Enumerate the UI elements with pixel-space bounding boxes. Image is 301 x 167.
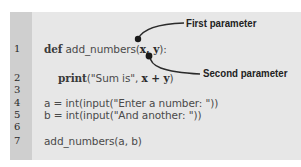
parameters: x, y bbox=[140, 43, 159, 55]
code-line-print: print("Sum is", x + y) bbox=[58, 72, 173, 84]
code-line-def: def add_numbers(x, y): bbox=[44, 43, 167, 55]
code-panel: 1 2 3 4 5 6 7 def add_numbers(x, y): pri… bbox=[10, 12, 301, 160]
code-text: ("Sum is", bbox=[87, 72, 142, 84]
line-number: 4 bbox=[14, 97, 28, 109]
line-number: 6 bbox=[14, 121, 28, 133]
function-name: add_numbers( bbox=[62, 43, 140, 55]
code-text: ): bbox=[159, 43, 166, 55]
first-parameter-label: First parameter bbox=[186, 17, 256, 29]
code-text: ) bbox=[169, 72, 173, 84]
line-number: 7 bbox=[14, 135, 28, 147]
code-line-input-a: a = int(input("Enter a number: ")) bbox=[44, 97, 218, 109]
line-number: 1 bbox=[14, 43, 28, 55]
code-line-input-b: b = int(input("And another: ")) bbox=[44, 109, 201, 121]
param-expression: x + y bbox=[141, 72, 169, 84]
keyword-print: print bbox=[58, 72, 87, 84]
code-line-call: add_numbers(a, b) bbox=[44, 135, 142, 147]
line-number: 3 bbox=[14, 84, 28, 96]
line-number: 2 bbox=[14, 72, 28, 84]
keyword-def: def bbox=[44, 43, 62, 55]
second-parameter-label: Second parameter bbox=[203, 67, 287, 79]
line-number: 5 bbox=[14, 109, 28, 121]
